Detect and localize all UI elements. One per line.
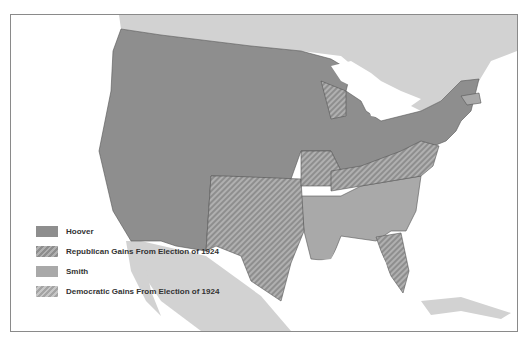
legend-label: Smith (66, 267, 88, 276)
legend-label: Hoover (66, 227, 94, 236)
legend-label: Republican Gains From Election of 1924 (66, 247, 219, 256)
smith-swatch (36, 266, 58, 277)
legend-label: Democratic Gains From Election of 1924 (66, 287, 219, 296)
legend-item-smith: Smith (36, 266, 219, 277)
legend-item-republican-gains: Republican Gains From Election of 1924 (36, 246, 219, 257)
republican-gains-swatch (36, 246, 58, 257)
legend: Hoover Republican Gains From Election of… (36, 226, 219, 306)
democratic-gains-swatch (36, 286, 58, 297)
legend-item-hoover: Hoover (36, 226, 219, 237)
hoover-swatch (36, 226, 58, 237)
legend-item-democratic-gains: Democratic Gains From Election of 1924 (36, 286, 219, 297)
cuba-land (421, 297, 511, 319)
